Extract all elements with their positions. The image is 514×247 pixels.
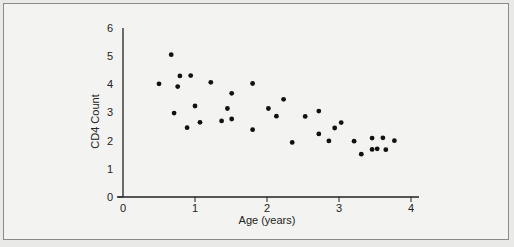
y-tick-label: 5 [107, 50, 113, 62]
data-point [375, 146, 380, 151]
data-point [229, 91, 234, 96]
data-point [157, 81, 162, 86]
data-point [250, 81, 255, 86]
data-point [370, 147, 375, 152]
y-tick-label: 2 [107, 135, 113, 147]
data-point [178, 74, 183, 79]
data-point [250, 127, 255, 132]
y-tick-label: 4 [107, 78, 113, 90]
x-tick-label: 4 [408, 202, 414, 214]
data-point [339, 120, 344, 125]
x-tick-label: 2 [264, 202, 270, 214]
data-point [188, 73, 193, 78]
data-point [316, 132, 321, 137]
x-tick-label: 0 [120, 202, 126, 214]
data-point [352, 139, 357, 144]
data-point [359, 152, 364, 157]
data-point [316, 109, 321, 114]
data-point [229, 117, 234, 122]
x-tick-label: 1 [192, 202, 198, 214]
data-point [274, 114, 279, 119]
data-point [266, 106, 271, 111]
data-point [198, 120, 203, 125]
y-tick-label: 1 [107, 163, 113, 175]
data-point [383, 147, 388, 152]
data-point [281, 97, 286, 102]
y-tick-label: 6 [107, 22, 113, 34]
data-point [208, 80, 213, 85]
data-point [219, 119, 224, 124]
x-axis-label: Age (years) [239, 214, 296, 226]
data-point [392, 138, 397, 143]
data-point [381, 135, 386, 140]
data-point [169, 52, 174, 57]
data-point [370, 136, 375, 141]
data-point [172, 111, 177, 116]
data-point [303, 114, 308, 119]
data-point [175, 84, 180, 89]
x-tick-label: 3 [336, 202, 342, 214]
data-point [332, 126, 337, 131]
y-axis-label: CD4 Count [89, 94, 101, 148]
data-point [193, 104, 198, 109]
y-tick-label: 3 [107, 106, 113, 118]
data-point [327, 139, 332, 144]
data-point [290, 140, 295, 145]
data-point [225, 106, 230, 111]
scatter-chart: 012345601234Age (years)CD4 Count [0, 0, 514, 247]
y-tick-label: 0 [107, 191, 113, 203]
data-point [185, 125, 190, 130]
